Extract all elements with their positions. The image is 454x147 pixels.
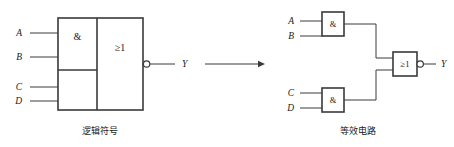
and-gate-cd-symbol: &: [330, 95, 337, 105]
input-label-d: D: [14, 96, 22, 106]
combined-gate-box: [58, 18, 143, 110]
and-top-symbol: &: [74, 31, 82, 42]
left-diagram-caption: 逻辑符号: [82, 125, 118, 136]
right-input-label-a: A: [287, 16, 294, 26]
right-output-label-y: Y: [441, 59, 448, 69]
arrow-head-icon: [258, 61, 265, 67]
input-label-b: B: [16, 52, 22, 62]
left-diagram: & ≥1 A B C D Y 逻辑符号: [14, 18, 189, 136]
wire-and-ab-to-or: [344, 24, 393, 58]
right-diagram-caption: 等效电路: [340, 125, 376, 136]
right-input-label-d: D: [286, 103, 294, 113]
nor-gate-symbol: ≥1: [401, 59, 410, 69]
logic-gate-equivalence-figure: & ≥1 A B C D Y 逻辑符号: [0, 0, 454, 147]
input-label-a: A: [15, 28, 22, 38]
right-output-inversion-bubble-icon: [417, 61, 423, 67]
output-inversion-bubble-icon: [143, 61, 149, 67]
input-label-c: C: [16, 82, 23, 92]
wire-and-cd-to-or: [344, 70, 393, 100]
output-label-y: Y: [182, 59, 189, 69]
right-diagram: & & ≥1 A B C D Y 等效电路: [286, 12, 448, 136]
right-input-label-b: B: [288, 31, 294, 41]
right-input-label-c: C: [288, 88, 295, 98]
and-gate-ab-symbol: &: [330, 19, 337, 29]
or-merged-symbol: ≥1: [115, 42, 126, 53]
transform-arrow: [205, 61, 265, 67]
